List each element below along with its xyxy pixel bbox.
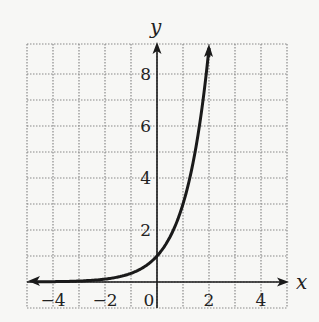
x-tick-label: −4 bbox=[40, 290, 65, 310]
x-tick-label: 2 bbox=[204, 290, 215, 310]
y-tick-label: 2 bbox=[140, 220, 151, 240]
x-tick-label: 0 bbox=[144, 290, 155, 310]
y-tick-label: 6 bbox=[140, 116, 151, 136]
y-tick-label: 8 bbox=[140, 64, 151, 84]
x-tick-label: −2 bbox=[92, 290, 117, 310]
exponential-graph: −4−20242468 x y bbox=[0, 0, 319, 322]
y-axis-label: y bbox=[149, 15, 162, 39]
x-tick-label: 4 bbox=[256, 290, 267, 310]
axes bbox=[27, 42, 289, 308]
y-tick-label: 4 bbox=[140, 168, 151, 188]
curve bbox=[28, 44, 213, 286]
tick-labels: −4−20242468 bbox=[40, 64, 266, 310]
x-axis-label: x bbox=[296, 270, 307, 294]
